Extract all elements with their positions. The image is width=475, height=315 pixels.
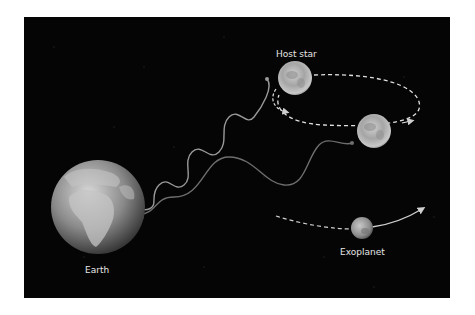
host-star-label: Host star <box>276 49 317 59</box>
exoplanet <box>351 217 373 239</box>
short-wavelength-wave <box>128 77 269 211</box>
host-star-position-1 <box>278 61 312 95</box>
diagram-panel: Host star Earth Exoplanet <box>24 17 450 298</box>
earth-globe <box>51 160 145 254</box>
earth-label: Earth <box>85 265 109 275</box>
host-star-position-2 <box>357 114 391 148</box>
exoplanet-label: Exoplanet <box>340 247 385 257</box>
diagram-canvas <box>24 17 450 298</box>
exoplanet-orbit <box>276 209 422 229</box>
long-wavelength-wave <box>139 141 354 215</box>
